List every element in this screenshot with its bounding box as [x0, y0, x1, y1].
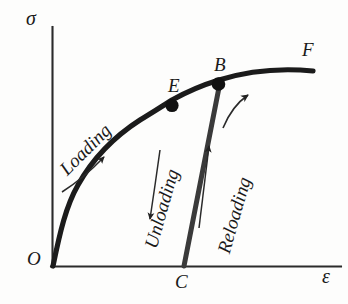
- plot-canvas: [0, 0, 348, 304]
- x-axis-label: ε: [322, 266, 330, 286]
- stress-strain-figure: σ ε O C E B F Loading Unloading Reloadin…: [0, 0, 348, 304]
- y-axis-label: σ: [26, 8, 36, 28]
- point-label-o: O: [27, 249, 41, 268]
- point-label-e: E: [168, 76, 180, 95]
- point-label-b: B: [214, 55, 226, 74]
- point-b-marker: [212, 77, 226, 91]
- unloading-line: [184, 85, 220, 266]
- point-e-marker: [165, 99, 178, 112]
- continue-loading-arrow: [223, 95, 248, 128]
- point-label-f: F: [302, 40, 314, 59]
- point-label-c: C: [175, 272, 188, 291]
